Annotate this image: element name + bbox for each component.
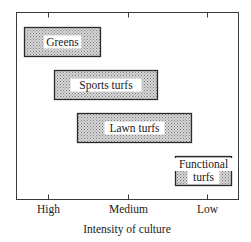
bar-label: Lawn turfs bbox=[109, 122, 160, 134]
bar-label: Greens bbox=[46, 36, 79, 48]
tick-label-medium: Medium bbox=[109, 203, 148, 215]
bar-label: Functional bbox=[179, 158, 228, 170]
bar-greens: Greens bbox=[25, 28, 101, 57]
bar-sports-turfs: Sports turfs bbox=[55, 71, 158, 100]
bar-lawn-turfs: Lawn turfs bbox=[78, 114, 192, 143]
tick-label-low: Low bbox=[197, 203, 219, 215]
tick-label-high: High bbox=[37, 203, 60, 216]
x-axis-label: Intensity of culture bbox=[83, 223, 171, 236]
turf-culture-chart: GreensSports turfsLawn turfsFunctionaltu… bbox=[0, 0, 251, 242]
bar-label: Sports turfs bbox=[79, 79, 133, 92]
bar-label: turfs bbox=[193, 171, 215, 183]
bar-functional-turfs: Functionalturfs bbox=[174, 157, 234, 186]
